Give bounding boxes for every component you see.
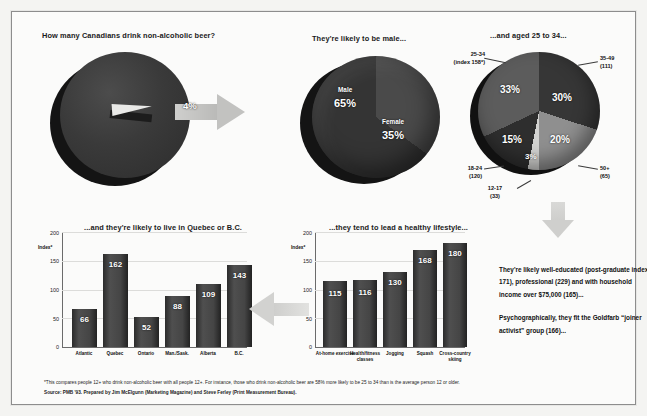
arrow-head	[217, 94, 245, 130]
insight-paragraph-education: They're likely well-educated (post-gradu…	[499, 264, 647, 301]
pie3-pct-18-24: 15%	[502, 134, 522, 145]
ytick-100: 100	[303, 287, 312, 293]
infographic-frame: How many Canadians drink non-alcoholic b…	[11, 11, 636, 405]
bar-health-fitness-classes: 116	[353, 280, 377, 347]
bar-chart-regions: 200 150 100 50 0 Index* ...and they're l…	[62, 232, 247, 348]
bar-jogging: 130	[383, 272, 407, 347]
pie2-male-label: Male	[338, 86, 352, 93]
bar-quebec: 162	[103, 254, 128, 347]
bar-at-home-exercise: 115	[323, 281, 347, 347]
pie-chart-gender: Male 65% Female 35%	[300, 56, 450, 201]
callout-12-17-index: (33)	[472, 192, 518, 200]
pie3-pct-50-plus: 20%	[550, 134, 570, 145]
bar-squash: 168	[413, 250, 437, 347]
pie2-female-label: Female	[382, 118, 404, 125]
pie2-disc	[312, 56, 440, 178]
bar-cat-cross-country-skiing: Cross-country skiing	[434, 351, 476, 362]
x-axis-line	[62, 347, 247, 348]
pie3-disc	[478, 52, 600, 170]
bar-value-squash: 168	[418, 256, 431, 265]
bar-value-at-home-exercise: 115	[329, 289, 342, 298]
arrow-body	[551, 202, 565, 222]
insights-text-block: They're likely well-educated (post-gradu…	[499, 264, 647, 337]
callout-35-49-label: 35-49	[600, 54, 614, 62]
arrow-down-pie3-to-text	[542, 202, 574, 240]
gridline-200	[62, 232, 247, 233]
pie3-title: ...and aged 25 to 34...	[490, 31, 567, 40]
bar-man-sask: 88	[165, 296, 190, 347]
bar-cross-country-skiing: 180	[443, 243, 467, 347]
bar-chart-lifestyle: 200 150 100 50 0 Index* ...they tend to …	[315, 232, 465, 348]
ytick-0: 0	[309, 344, 312, 350]
ytick-100: 100	[50, 287, 59, 293]
ytick-150: 150	[50, 258, 59, 264]
bar-value-alberta: 109	[202, 290, 215, 299]
gridline-150	[62, 261, 247, 262]
insight-paragraph-psychographics: Psychographically, they fit the Goldfarb…	[499, 312, 647, 337]
pie2-male-value: 65%	[334, 97, 356, 109]
bar-value-ontario: 52	[142, 323, 151, 332]
callout-18-24-label: 18-24	[434, 164, 482, 172]
x-axis-line	[315, 347, 465, 348]
footnote-text: *This compares people 12+ who drink non-…	[44, 378, 634, 388]
bar-value-man-sask: 88	[173, 302, 182, 311]
arrow-head	[249, 292, 274, 326]
pie2-female-value: 35%	[382, 129, 404, 141]
y-axis-label: Index*	[38, 245, 52, 250]
ytick-200: 200	[50, 230, 59, 236]
pie1-slice-label: 4%	[183, 100, 197, 111]
bar-alberta: 109	[196, 284, 221, 347]
ytick-50: 50	[53, 316, 59, 322]
callout-18-24-index: (120)	[434, 172, 482, 180]
pie3-pct-35-49: 30%	[552, 92, 572, 103]
bar-value-atlantic: 66	[80, 315, 89, 324]
callout-12-17-label: 12-17	[472, 184, 518, 192]
pie3-pct-12-17: 3%	[525, 152, 537, 161]
bar-ontario: 52	[134, 317, 159, 347]
callout-50-plus-label: 50+	[600, 164, 610, 172]
ytick-50: 50	[306, 316, 312, 322]
arrow-body	[271, 303, 309, 316]
callout-25-34-label: 25-34	[431, 50, 485, 58]
y-axis-label: Index*	[291, 245, 305, 250]
source-text: Source: PMB '93. Prepared by Jim McElgun…	[44, 388, 634, 398]
infographic-page: How many Canadians drink non-alcoholic b…	[0, 0, 647, 416]
gridline-200	[315, 232, 465, 233]
bar-atlantic: 66	[72, 309, 97, 347]
ytick-0: 0	[56, 344, 59, 350]
arrow-body	[175, 104, 219, 120]
callout-50-plus-index: (65)	[600, 172, 610, 180]
bar-value-cross-country-skiing: 180	[448, 249, 461, 258]
bar-value-quebec: 162	[109, 260, 122, 269]
bar-chart-lifestyle-title: ...they tend to lead a healthy lifestyle…	[329, 223, 468, 232]
arrow-head	[542, 220, 574, 238]
pie3-pct-25-34: 33%	[500, 84, 520, 95]
bar-value-health-fitness-classes: 116	[359, 288, 372, 297]
callout-35-49-index: (111)	[600, 62, 614, 70]
pie-chart-age: 30% 20% 3% 15% 33%	[470, 52, 620, 202]
ytick-200: 200	[303, 230, 312, 236]
bar-cat-bc: B.C.	[218, 351, 260, 357]
arrow-left-lifestyle-to-regions	[249, 292, 309, 326]
bar-value-bc: 143	[233, 271, 246, 280]
ytick-150: 150	[303, 258, 312, 264]
pie2-title: They're likely to be male...	[312, 34, 406, 43]
footnotes: *This compares people 12+ who drink non-…	[44, 378, 634, 397]
callout-25-34-index: (index 158*)	[431, 58, 485, 66]
pie1-title: How many Canadians drink non-alcoholic b…	[42, 31, 215, 40]
bar-chart-regions-title: ...and they're likely to live in Quebec …	[84, 223, 242, 232]
bar-value-jogging: 130	[388, 278, 401, 287]
